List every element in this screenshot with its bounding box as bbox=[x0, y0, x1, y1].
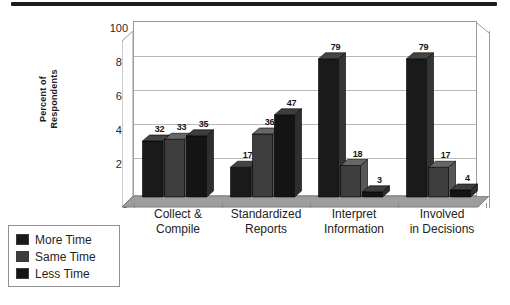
legend-swatch-same-time bbox=[16, 251, 29, 262]
y-axis-title-line-1: Percent of bbox=[38, 44, 49, 154]
bar-value-label-2-0: 79 bbox=[326, 42, 346, 52]
plot-right-frame bbox=[489, 31, 490, 208]
bar-value-label-2-1: 18 bbox=[348, 149, 368, 159]
legend-item-same-time: Same Time bbox=[16, 248, 119, 265]
legend-swatch-less-time bbox=[16, 268, 29, 279]
bar-value-label-1-0: 17 bbox=[238, 150, 258, 160]
bar-value-label-3-2: 4 bbox=[458, 173, 478, 183]
bar-value-label-0-2: 35 bbox=[194, 119, 214, 129]
legend-label-less-time: Less Time bbox=[35, 267, 90, 281]
x-category-label-3-line-2: in Decisions bbox=[387, 222, 497, 237]
plot-top-right-bevel bbox=[477, 21, 491, 33]
bar-value-label-0-1: 33 bbox=[172, 122, 192, 132]
y-axis-title-line-2: Respondents bbox=[49, 44, 60, 154]
gridline-80 bbox=[134, 56, 476, 57]
legend-swatch-more-time bbox=[16, 234, 29, 245]
bar-value-label-3-0: 79 bbox=[414, 42, 434, 52]
bar-value-label-2-2: 3 bbox=[370, 175, 390, 185]
bar-value-label-1-2: 47 bbox=[282, 98, 302, 108]
y-axis-title: Percent of Respondents bbox=[38, 44, 60, 154]
bar-value-label-1-1: 36 bbox=[260, 117, 280, 127]
legend-label-more-time: More Time bbox=[35, 233, 92, 247]
legend-item-more-time: More Time bbox=[16, 231, 119, 248]
gridline-20 bbox=[134, 158, 476, 159]
chart-legend: More Time Same Time Less Time bbox=[8, 225, 120, 287]
bar-value-label-0-0: 32 bbox=[150, 124, 170, 134]
x-category-label-3-line-1: Involved bbox=[387, 207, 497, 222]
bar-value-label-3-1: 17 bbox=[436, 150, 456, 160]
gridline-60 bbox=[134, 90, 476, 91]
legend-item-less-time: Less Time bbox=[16, 265, 119, 282]
bar-chart: Percent of Respondents 100 80 60 40 20 0 bbox=[0, 0, 510, 305]
plot-left-depth-wall bbox=[122, 31, 134, 207]
legend-label-same-time: Same Time bbox=[35, 250, 96, 264]
x-category-label-3: Involved in Decisions bbox=[387, 207, 497, 237]
